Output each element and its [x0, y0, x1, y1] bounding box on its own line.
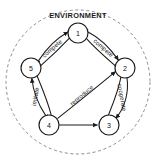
node-1[interactable]: 1: [68, 23, 88, 43]
environment-title: ENVIRONMENT: [49, 11, 107, 20]
edge-label-4-2: reproduce: [68, 83, 95, 107]
diagram-canvas: ENVIRONMENT compete compete cooperate im…: [0, 0, 157, 164]
environment-network-diagram: ENVIRONMENT compete compete cooperate im…: [0, 0, 157, 164]
node-5-label: 5: [29, 65, 33, 72]
node-3-label: 3: [107, 122, 111, 129]
edge-label-2-3: cooperate: [117, 83, 129, 112]
node-2-label: 2: [123, 65, 127, 72]
node-3[interactable]: 3: [99, 115, 119, 135]
node-4-label: 4: [47, 122, 51, 129]
node-2[interactable]: 2: [115, 58, 135, 78]
node-1-label: 1: [76, 30, 80, 37]
node-5[interactable]: 5: [21, 58, 41, 78]
edge-4-5-imitate-outer: [37, 76, 51, 115]
node-4[interactable]: 4: [39, 115, 59, 135]
